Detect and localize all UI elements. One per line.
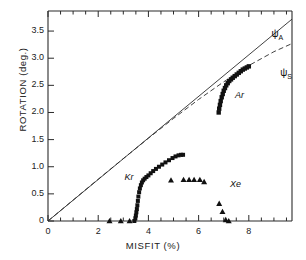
marker-square <box>218 103 222 107</box>
x-tick-label: 8 <box>237 226 261 236</box>
chart-canvas <box>0 0 306 260</box>
marker-square <box>219 99 223 103</box>
marker-square <box>181 153 185 157</box>
marker-square <box>137 190 141 194</box>
ar-label: Ar <box>235 90 244 100</box>
marker-square <box>136 199 140 203</box>
marker-square <box>135 203 139 207</box>
marker-triangle <box>181 177 187 182</box>
marker-triangle <box>186 177 192 182</box>
marker-triangle <box>191 177 197 182</box>
marker-triangle <box>168 177 174 182</box>
y-tick-label: 0 <box>4 215 44 225</box>
marker-triangle <box>197 177 203 182</box>
x-tick-label: 0 <box>36 226 60 236</box>
series-Kr <box>132 153 185 223</box>
marker-square <box>217 106 221 110</box>
marker-square <box>163 160 167 164</box>
y-axis-title: ROTATION (deg.) <box>17 30 28 150</box>
kr-label: Kr <box>125 172 134 182</box>
line-psi_A <box>48 19 292 221</box>
x-tick-label: 6 <box>187 226 211 236</box>
series-Ar <box>216 64 251 115</box>
y-tick-label: 0.5 <box>4 188 44 198</box>
axis-ticks <box>48 11 286 221</box>
marker-triangle <box>216 201 222 206</box>
series-psi_S <box>48 44 292 221</box>
x-axis-title: MISFIT (%) <box>0 240 306 251</box>
marker-square <box>136 195 140 199</box>
marker-square <box>216 110 220 114</box>
marker-square <box>135 207 139 211</box>
series-psi_A <box>48 19 292 221</box>
data-series-layer <box>48 19 292 223</box>
psi-s-label: ψS <box>280 67 292 80</box>
marker-square <box>247 64 251 68</box>
marker-triangle <box>219 209 225 214</box>
axis-frame <box>48 11 292 221</box>
psi-a-label: ψA <box>271 28 283 41</box>
figure-container: 0246800.51.01.52.02.53.03.5 ψAψSKrXeAr R… <box>0 0 306 260</box>
line-psi_S <box>48 44 292 221</box>
y-tick-label: 1.0 <box>4 161 44 171</box>
marker-square <box>167 158 171 162</box>
series-Xe <box>107 177 232 224</box>
x-tick-label: 4 <box>136 226 160 236</box>
xe-label: Xe <box>230 179 241 189</box>
x-tick-label: 2 <box>86 226 110 236</box>
